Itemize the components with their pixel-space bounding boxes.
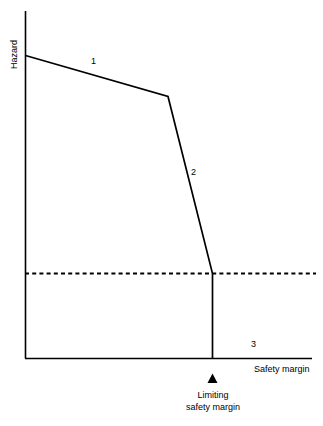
hazard-safety-margin-figure: Hazard Safety margin 1 2 3 Limiting safe…: [0, 0, 323, 426]
limiting-safety-margin-caption: Limiting safety margin: [163, 389, 263, 413]
x-axis-title: Safety margin: [254, 364, 310, 375]
segment-2-label: 2: [191, 167, 196, 178]
plot-canvas: [0, 0, 323, 426]
segment-3-label: 3: [251, 339, 256, 350]
limiting-safety-margin-triangle-icon: [208, 374, 218, 384]
hazard-curve: [26, 56, 213, 359]
segment-1-label: 1: [91, 56, 96, 67]
limiting-caption-line-2: safety margin: [163, 401, 263, 413]
limiting-caption-line-1: Limiting: [163, 389, 263, 401]
y-axis-title: Hazard: [9, 28, 20, 82]
